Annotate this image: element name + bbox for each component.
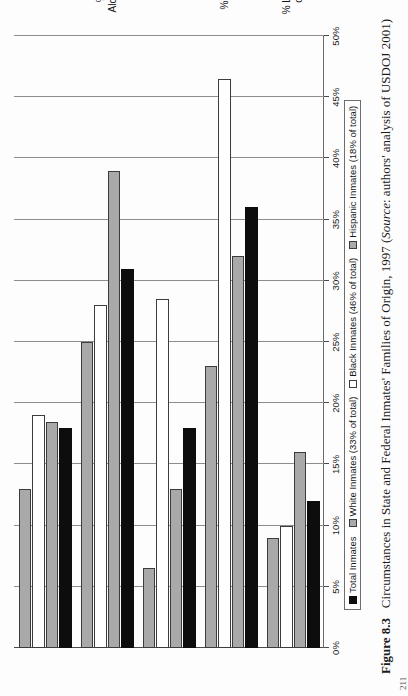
bar [46, 422, 59, 648]
x-axis-tick-label: 40% [330, 149, 341, 168]
x-axis-tick-label: 15% [330, 455, 341, 474]
source-label: Source [378, 203, 393, 239]
legend-label: Black Inmates (46% of total) [347, 258, 358, 377]
x-axis-tick-label: 45% [330, 88, 341, 107]
legend-swatch-icon [349, 520, 357, 528]
bar [232, 256, 245, 648]
x-axis-line [323, 36, 324, 648]
bar [267, 538, 280, 648]
x-axis-tick-label: 5% [330, 580, 341, 594]
legend-swatch-icon [349, 380, 357, 388]
bar-group [205, 36, 258, 648]
x-axis-tick-label: 25% [330, 332, 341, 351]
legend-label: White Inmates (33% of total) [347, 397, 358, 517]
bar-group [81, 36, 134, 648]
bar [19, 489, 32, 648]
legend-label: Total Inmates [347, 537, 358, 594]
x-axis-tick [324, 157, 329, 158]
legend-label: Hispanic Inmates (18% of total) [347, 106, 358, 238]
bar-group [19, 36, 72, 648]
category-label: % Parents on Welfare [219, 0, 231, 26]
x-axis-tick [324, 586, 329, 587]
x-axis-tick [324, 463, 329, 464]
category-label: % Parents Abused Alcohol or Illegal Drug… [95, 0, 118, 26]
x-axis-tick-label: 20% [330, 394, 341, 413]
bar [307, 501, 320, 648]
bar [205, 366, 218, 648]
bar [294, 452, 307, 648]
x-axis-tick [324, 525, 329, 526]
bar [245, 207, 258, 648]
bar [94, 305, 107, 648]
legend-item: Hispanic Inmates (18% of total) [347, 106, 358, 249]
legend-swatch-icon [349, 241, 357, 249]
bar-group [143, 36, 196, 648]
bar [156, 299, 169, 648]
bar [81, 342, 94, 648]
bar [121, 269, 134, 648]
bar [143, 568, 156, 648]
x-axis-tick [324, 341, 329, 342]
x-axis-tick-label: 10% [330, 516, 341, 535]
bar [183, 428, 196, 648]
figure-title: Circumstances in State and Federal Inmat… [378, 246, 393, 608]
category-label: % Lived in Foster Home or Agency as Chil… [281, 0, 304, 26]
source-text: : authors' analysis of USDOJ 2001) [378, 19, 393, 203]
chart-plot-area: 0%5%10%15%20%25%30%35%40%45%50%% Lived i… [14, 36, 324, 648]
x-axis-tick [324, 280, 329, 281]
chart-legend: Total InmatesWhite Inmates (33% of total… [344, 100, 361, 610]
legend-swatch-icon [349, 596, 357, 604]
bar [170, 489, 183, 648]
source-open: ( [378, 239, 393, 243]
figure-page: 0%5%10%15%20%25%30%35%40%45%50%% Lived i… [0, 0, 408, 696]
x-axis-tick [324, 219, 329, 220]
x-axis-tick-label: 0% [330, 641, 341, 655]
x-axis-tick [324, 402, 329, 403]
figure-number: Figure 8.3 [378, 618, 393, 674]
x-axis-tick [324, 647, 329, 648]
x-axis-tick [324, 35, 329, 36]
bar-group [267, 36, 320, 648]
category-label: % Parent Ever Incarcerated [33, 0, 56, 26]
bar [108, 171, 121, 648]
bar [59, 428, 72, 648]
legend-item: Black Inmates (46% of total) [347, 258, 358, 388]
x-axis-tick-label: 35% [330, 210, 341, 229]
legend-item: White Inmates (33% of total) [347, 397, 358, 528]
x-axis-tick [324, 96, 329, 97]
category-label: % Lived in Public Housing [157, 0, 180, 26]
bar [218, 79, 231, 648]
page-number: 211 [398, 677, 408, 690]
rotated-figure-canvas: 0%5%10%15%20%25%30%35%40%45%50%% Lived i… [0, 0, 408, 696]
bar [32, 415, 45, 648]
figure-caption: Figure 8.3 Circumstances in State and Fe… [378, 14, 394, 674]
bar [280, 526, 293, 648]
x-axis-tick-label: 30% [330, 271, 341, 290]
x-axis-tick-label: 50% [330, 26, 341, 45]
legend-item: Total Inmates [347, 537, 358, 605]
